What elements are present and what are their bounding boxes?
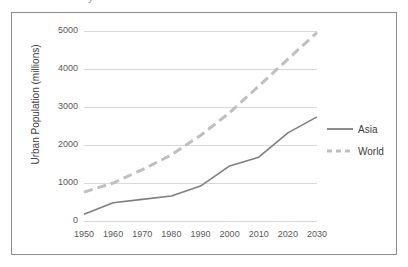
legend-label: World bbox=[358, 146, 384, 157]
x-tick-label: 1950 bbox=[69, 229, 99, 239]
x-tick-label: 2030 bbox=[302, 229, 332, 239]
chart-legend: AsiaWorld bbox=[327, 121, 397, 165]
series-line-asia bbox=[84, 117, 317, 214]
series-lines-group bbox=[84, 33, 317, 215]
x-tick-label: 1990 bbox=[186, 229, 216, 239]
y-tick-label: 4000 bbox=[40, 63, 78, 73]
legend-swatch-dashed-icon bbox=[327, 146, 353, 156]
y-tick-label: 5000 bbox=[40, 25, 78, 35]
y-tick-label: 3000 bbox=[40, 101, 78, 111]
chart-figure-frame: Urban Population (millions) 010002000300… bbox=[11, 12, 397, 255]
y-tick-label: 1000 bbox=[40, 177, 78, 187]
line-chart: Urban Population (millions) 010002000300… bbox=[12, 13, 396, 254]
clipped-text-fragment: y bbox=[88, 0, 94, 3]
legend-label: Asia bbox=[358, 124, 377, 135]
y-axis-title: Urban Population (millions) bbox=[30, 25, 41, 185]
x-tick-label: 1970 bbox=[127, 229, 157, 239]
gridlines-group bbox=[84, 32, 317, 222]
y-tick-label: 2000 bbox=[40, 139, 78, 149]
legend-item-world[interactable]: World bbox=[327, 143, 397, 159]
legend-swatch-solid-icon bbox=[327, 124, 353, 134]
legend-item-asia[interactable]: Asia bbox=[327, 121, 397, 137]
x-tick-label: 1980 bbox=[156, 229, 186, 239]
series-line-world bbox=[84, 33, 317, 193]
x-tick-label: 2000 bbox=[215, 229, 245, 239]
x-tick-label: 2020 bbox=[273, 229, 303, 239]
x-tick-label: 2010 bbox=[244, 229, 274, 239]
x-tick-label: 1960 bbox=[98, 229, 128, 239]
y-tick-label: 0 bbox=[40, 215, 78, 225]
